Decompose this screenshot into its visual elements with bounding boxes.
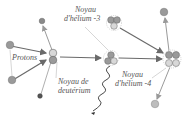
deuterium-nucleus xyxy=(49,49,57,64)
arrow-deuterium-to-positron xyxy=(43,26,52,50)
gamma-arrow-head xyxy=(91,112,95,115)
proton-emitted-top xyxy=(160,8,168,16)
arrow-deuterium-to-helium3 xyxy=(60,57,101,58)
helium3-nucleus-top xyxy=(107,16,122,31)
leader-helium3 xyxy=(85,27,108,50)
leader-deuterium xyxy=(56,62,57,78)
arrow-helium3b-to-helium4 xyxy=(120,28,163,53)
line-deuterium-to-neutrino xyxy=(41,62,51,94)
arrow-proton1-to-deuterium xyxy=(11,46,46,53)
leader-helium4 xyxy=(152,68,166,78)
arrow-proton2-to-deuterium xyxy=(13,60,46,80)
neutrino xyxy=(38,94,43,99)
label-deuterium-1: Noyau de xyxy=(57,77,89,86)
label-protons: Protons xyxy=(11,53,37,62)
helium4-nucleus xyxy=(163,50,181,68)
gamma-ray-wave xyxy=(93,66,110,111)
label-deuterium-2: deutérium xyxy=(58,86,91,95)
proton-proton-chain-diagram: Protons Noyau de deutérium Noyau d'héliu… xyxy=(0,0,187,123)
label-helium3-2: d'hélium -3 xyxy=(64,14,100,23)
proton-emitted-bottom xyxy=(151,100,159,108)
label-helium4-2: d'hélium -4 xyxy=(115,79,151,88)
arrow-top-proton-emitted xyxy=(165,18,169,51)
positron xyxy=(39,18,45,24)
helium3-nucleus-middle xyxy=(104,51,119,66)
proton-left-bottom xyxy=(8,76,16,84)
label-helium4-1: Noyau xyxy=(121,70,143,79)
arrow-bottom-proton-emitted xyxy=(157,67,170,99)
proton-left-top xyxy=(6,41,14,49)
arrow-helium3-to-helium4 xyxy=(119,58,162,59)
label-helium3-1: Noyau xyxy=(74,5,96,14)
